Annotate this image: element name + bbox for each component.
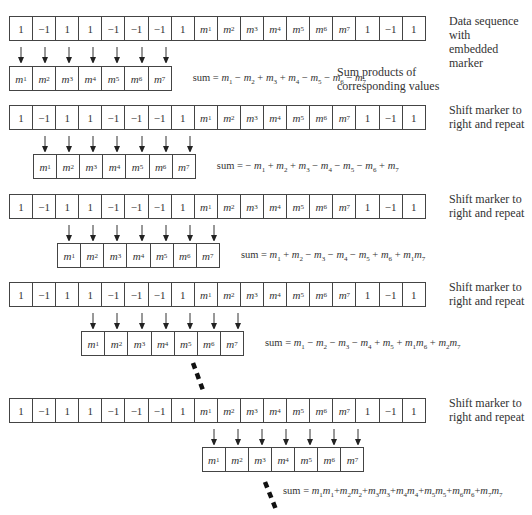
window-cell: m3 (127, 331, 151, 356)
window-cell: m7 (148, 66, 172, 91)
sequence-cell: 1 (171, 398, 195, 423)
down-arrow-icon (186, 313, 194, 329)
window-cell: m2 (80, 243, 104, 268)
window-cell: m3 (103, 243, 127, 268)
sequence-cell: m7 (332, 16, 356, 41)
down-arrow-icon (113, 47, 121, 63)
down-arrow-icon (186, 225, 194, 241)
sequence-cell: 1 (78, 16, 102, 41)
down-arrow-icon (138, 136, 146, 152)
sum-products-note: Sum products of corresponding values (337, 65, 439, 93)
sequence-cell: −1 (32, 194, 56, 219)
data-sequence-row: 1−111−1−1−11m1m2m3m4m5m6m71−11 (9, 282, 426, 307)
down-arrow-icon (65, 136, 73, 152)
sequence-cell: −1 (32, 16, 56, 41)
sequence-cell: 1 (402, 16, 426, 41)
sequence-cell: m3 (240, 282, 264, 307)
sequence-cell: −1 (148, 398, 172, 423)
down-arrow-icon (89, 136, 97, 152)
down-arrow-icon (210, 429, 218, 445)
sum-equation: sum = − m1 + m2 + m3 − m4 − m5 − m6 + m7 (217, 160, 399, 174)
down-arrow-icon (89, 225, 97, 241)
down-arrow-icon (162, 47, 170, 63)
sequence-cell: 1 (9, 398, 33, 423)
down-arrow-icon (138, 225, 146, 241)
marker-window-row: m1m2m3m4m5m6m7 (202, 447, 365, 472)
step-label: Shift marker to right and repeat (449, 103, 524, 131)
sequence-cell: m4 (263, 16, 287, 41)
window-cell: m2 (104, 331, 128, 356)
down-arrow-icon (330, 429, 338, 445)
down-arrow-icon (89, 313, 97, 329)
step-label: Shift marker to right and repeat (449, 280, 524, 308)
sequence-cell: m6 (309, 105, 333, 130)
down-arrow-icon (65, 225, 73, 241)
down-arrow-icon (113, 225, 121, 241)
sum-equation: sum = m1m1+m2m2+m3m3+m4m4+m5m5+m6m6+m7m7 (283, 485, 503, 499)
sequence-cell: m1 (194, 105, 218, 130)
down-arrow-icon (186, 136, 194, 152)
sequence-cell: 1 (171, 194, 195, 219)
down-arrow-icon (89, 47, 97, 63)
sequence-cell: −1 (379, 398, 403, 423)
window-cell: m3 (79, 154, 103, 179)
sequence-cell: m2 (217, 16, 241, 41)
down-arrow-icon (41, 47, 49, 63)
sequence-cell: 1 (355, 194, 379, 219)
sequence-cell: 1 (78, 282, 102, 307)
step-label: Shift marker to right and repeat (449, 192, 524, 220)
sequence-cell: m2 (217, 282, 241, 307)
sequence-cell: 1 (55, 282, 79, 307)
sequence-cell: −1 (32, 398, 56, 423)
sequence-cell: 1 (355, 398, 379, 423)
sequence-cell: 1 (402, 398, 426, 423)
window-cell: m1 (9, 66, 33, 91)
down-arrow-icon (162, 136, 170, 152)
sequence-cell: m5 (286, 282, 310, 307)
down-arrow-icon (162, 225, 170, 241)
sequence-cell: m4 (263, 105, 287, 130)
sequence-cell: m4 (263, 282, 287, 307)
down-arrow-icon (65, 47, 73, 63)
sequence-cell: m6 (309, 398, 333, 423)
window-cell: m3 (55, 66, 79, 91)
sequence-cell: −1 (124, 398, 148, 423)
sequence-cell: m5 (286, 398, 310, 423)
down-arrow-icon (234, 313, 242, 329)
ellipsis-dashes-icon (189, 359, 208, 397)
sequence-cell: m2 (217, 105, 241, 130)
down-arrow-icon (162, 313, 170, 329)
sequence-cell: 1 (355, 282, 379, 307)
marker-window-row: m1m2m3m4m5m6m7 (9, 66, 172, 91)
sequence-cell: −1 (101, 105, 125, 130)
sequence-cell: 1 (55, 16, 79, 41)
sum-equation: sum = m1 − m2 − m3 − m4 + m5 + m1m6 + m2… (265, 337, 461, 351)
window-cell: m6 (124, 66, 148, 91)
sequence-cell: m3 (240, 16, 264, 41)
sequence-cell: −1 (101, 282, 125, 307)
sequence-cell: −1 (379, 194, 403, 219)
step-label: Data sequence with embedded marker (449, 14, 532, 70)
sequence-cell: 1 (171, 16, 195, 41)
window-cell: m5 (125, 154, 149, 179)
sequence-cell: 1 (55, 105, 79, 130)
sequence-cell: m2 (217, 398, 241, 423)
down-arrow-icon (210, 313, 218, 329)
sequence-cell: m7 (332, 194, 356, 219)
sequence-cell: m7 (332, 282, 356, 307)
step-label: Shift marker to right and repeat (449, 396, 524, 424)
sequence-cell: −1 (124, 282, 148, 307)
sequence-cell: 1 (355, 105, 379, 130)
sequence-cell: 1 (171, 282, 195, 307)
data-sequence-row: 1−111−1−1−11m1m2m3m4m5m6m71−11 (9, 398, 426, 423)
window-cell: m4 (78, 66, 102, 91)
window-cell: m1 (202, 447, 226, 472)
sequence-cell: 1 (9, 282, 33, 307)
sequence-cell: −1 (379, 105, 403, 130)
window-cell: m6 (173, 243, 197, 268)
sequence-cell: 1 (78, 105, 102, 130)
data-sequence-row: 1−111−1−1−11m1m2m3m4m5m6m71−11 (9, 16, 426, 41)
window-cell: m3 (248, 447, 272, 472)
down-arrow-icon (17, 47, 25, 63)
sequence-cell: −1 (32, 282, 56, 307)
